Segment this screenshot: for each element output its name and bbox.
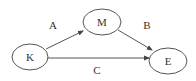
node-e: E (149, 48, 187, 74)
arrow-k-to-m (46, 31, 83, 49)
edge-label-a: A (49, 19, 57, 31)
node-m: M (83, 9, 121, 35)
edge-k-to-m (46, 31, 83, 49)
edge-m-to-e (118, 30, 152, 50)
arrow-m-to-e (118, 30, 152, 50)
node-m-label: M (97, 16, 107, 28)
edge-label-b: B (143, 19, 150, 31)
edge-label-c: C (93, 64, 100, 76)
path-diagram: K M E A B C (0, 0, 196, 81)
node-e-label: E (165, 55, 172, 67)
node-k-label: K (26, 51, 34, 63)
node-k: K (12, 44, 48, 70)
